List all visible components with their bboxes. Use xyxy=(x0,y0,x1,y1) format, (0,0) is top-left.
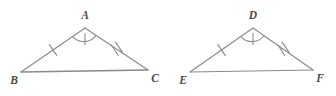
tick-mark-side-ab xyxy=(49,45,56,56)
side-ac xyxy=(85,28,148,70)
side-ef xyxy=(190,70,313,72)
vertex-label-f: F xyxy=(315,72,324,84)
vertex-label-c: C xyxy=(151,72,159,84)
side-df xyxy=(253,28,313,70)
vertex-label-a: A xyxy=(80,9,89,21)
side-bc xyxy=(21,70,148,72)
vertex-label-b: B xyxy=(9,74,18,86)
geometry-figure: A B C D E F xyxy=(0,0,336,96)
triangle-abc: A B C xyxy=(9,9,159,86)
vertex-label-e: E xyxy=(178,74,187,86)
triangle-def: D E F xyxy=(178,9,324,86)
triangle-diagram-canvas: A B C D E F xyxy=(0,0,336,96)
vertex-label-d: D xyxy=(248,9,258,21)
tick-mark-side-ac-1 xyxy=(111,45,118,55)
tick-mark-side-de xyxy=(218,45,225,56)
